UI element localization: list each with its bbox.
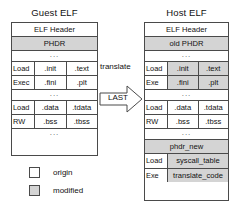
section-cell: .init [35,62,66,76]
section-column: syscall_tabletranslate_code [168,154,228,182]
segment-flags: LoadExe [145,154,168,182]
last-label: LAST [108,93,128,102]
section-cell: .data [168,101,198,115]
guest-row-ellipsis: ... [12,129,97,140]
section-label: phdr_new [145,140,228,153]
section-column: .init.fini [35,62,67,89]
segment-flags: LoadExec [12,62,35,89]
section-cell: syscall_table [168,154,228,169]
ellipsis-marker: ... [12,90,97,100]
translate-label: translate [100,62,131,71]
segment-flag-line: Load [145,101,167,115]
segment-sections: .data.bss.tdata.tbss [35,101,97,128]
section-cell: .tbss [67,115,98,128]
section-cell: .tdata [199,101,229,115]
segment-flags: LoadExe [145,62,168,89]
host-segment-band: LoadExesyscall_tabletranslate_code [145,154,228,182]
host-row-phdr-new: phdr_new [145,140,228,154]
section-cell: .plt [67,76,98,89]
host-row-elf-header: ELF Header [145,23,228,37]
host-segment-band: LoadExe.init.fini.text.plt [145,62,228,90]
legend-item: origin [29,163,119,181]
legend-label: modified [53,186,83,195]
guest-row-elf-header: ELF Header [12,23,97,37]
section-label: ELF Header [145,23,228,36]
section-label: ELF Header [12,23,97,36]
section-column: .data.bss [168,101,199,128]
segment-flag-line: Load [145,154,167,169]
section-column: .data.bss [35,101,67,128]
segment-flag-line: Exe [145,76,167,89]
elf-translation-diagram: Guest ELF Host ELF ELF HeaderPHDR...Load… [0,0,241,208]
segment-flag-line: RW [145,115,167,128]
section-cell: .bss [168,115,198,128]
host-row-ellipsis: ... [145,51,228,62]
legend-swatch-modified [29,185,40,196]
ellipsis-marker: ... [145,51,228,61]
segment-sections: syscall_tabletranslate_code [168,154,228,182]
ellipsis-marker: ... [145,129,228,139]
section-cell: .plt [199,76,229,89]
legend-swatch-origin [29,167,40,178]
guest-row-phdr: PHDR [12,37,97,51]
section-cell: .data [35,101,66,115]
segment-flags: LoadRW [145,101,168,128]
host-elf-title: Host ELF [144,7,229,18]
legend: originmodified [29,163,119,199]
section-column: .tdata.tbss [67,101,98,128]
segment-flag-line: Load [12,101,34,115]
section-cell: .init [168,62,198,76]
host-row-ellipsis: ... [145,90,228,101]
ellipsis-marker: ... [12,129,97,140]
segment-sections: .init.fini.text.plt [35,62,97,89]
legend-label: origin [53,168,73,177]
section-cell: .tbss [199,115,229,128]
section-label: PHDR [12,37,97,50]
segment-flag-line: Load [12,62,34,76]
ellipsis-marker: ... [145,90,228,100]
section-column: .init.fini [168,62,199,89]
guest-elf-title: Guest ELF [11,7,98,18]
ellipsis-marker: ... [12,51,97,61]
section-label: old PHDR [145,37,228,50]
section-cell: translate_code [168,169,228,183]
section-cell: .fini [35,76,66,89]
segment-flag-line: Load [145,62,167,76]
section-cell: .fini [168,76,198,89]
section-cell: .text [67,62,98,76]
guest-elf-box: ELF HeaderPHDR...LoadExec.init.fini.text… [11,22,98,156]
section-column: .text.plt [67,62,98,89]
legend-item: modified [29,181,119,199]
segment-flag-line: Exe [145,169,167,183]
host-row-old-phdr: old PHDR [145,37,228,51]
guest-segment-band: LoadRW.data.bss.tdata.tbss [12,101,97,129]
section-cell: .bss [35,115,66,128]
guest-segment-band: LoadExec.init.fini.text.plt [12,62,97,90]
segment-flag-line: Exec [12,76,34,89]
guest-row-ellipsis: ... [12,90,97,101]
segment-flags: LoadRW [12,101,35,128]
section-column: .text.plt [199,62,229,89]
segment-sections: .data.bss.tdata.tbss [168,101,228,128]
segment-sections: .init.fini.text.plt [168,62,228,89]
section-column: .tdata.tbss [199,101,229,128]
guest-row-ellipsis: ... [12,51,97,62]
host-row-ellipsis: ... [145,129,228,140]
section-cell: .text [199,62,229,76]
segment-flag-line: RW [12,115,34,128]
section-cell: .tdata [67,101,98,115]
host-elf-box: ELF Headerold PHDR...LoadExe.init.fini.t… [144,22,229,201]
host-segment-band: LoadRW.data.bss.tdata.tbss [145,101,228,129]
